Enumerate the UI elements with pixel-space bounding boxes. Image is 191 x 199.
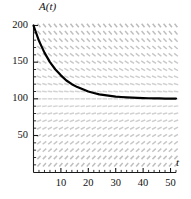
chart-canvas <box>0 0 191 199</box>
x-tick-label: 40 <box>131 177 155 188</box>
y-tick-label: 150 <box>0 55 28 66</box>
y-tick-label: 50 <box>0 129 28 140</box>
x-tick-label: 50 <box>159 177 183 188</box>
x-axis-label: t <box>176 156 179 168</box>
y-tick-label: 200 <box>0 19 28 30</box>
x-axis-ticks <box>39 168 176 173</box>
y-axis-label: A(t) <box>39 0 56 12</box>
x-tick-label: 30 <box>104 177 128 188</box>
slope-field-chart: A(t) t 50100150200 1020304050 <box>0 0 191 199</box>
y-tick-label: 100 <box>0 92 28 103</box>
x-tick-label: 20 <box>76 177 100 188</box>
x-tick-label: 10 <box>49 177 73 188</box>
